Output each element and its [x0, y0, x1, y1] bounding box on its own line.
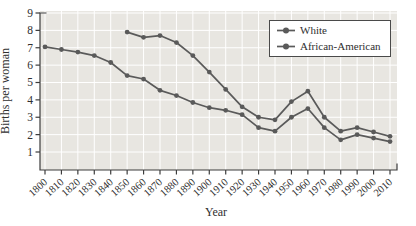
white-series-marker-icon [283, 28, 289, 34]
y-axis-title: Births per woman [0, 48, 12, 134]
data-point-white [371, 136, 376, 141]
y-tick-label: 3 [27, 111, 33, 123]
legend: White African-American [270, 21, 391, 57]
data-point-african-american [273, 117, 278, 122]
legend-label-white: White [300, 24, 327, 36]
data-point-african-american [322, 115, 327, 120]
data-point-african-american [388, 134, 393, 139]
data-point-white [388, 139, 393, 144]
data-point-white [207, 105, 212, 110]
data-point-white [338, 137, 343, 142]
data-point-african-american [371, 130, 376, 135]
fertility-chart-container: 1234567891800181018201830184018501860187… [0, 0, 416, 226]
data-point-white [305, 106, 310, 111]
data-point-white [289, 115, 294, 120]
data-point-african-american [207, 70, 212, 75]
x-axis-title: Year [205, 205, 227, 219]
legend-label-african-american: African-American [300, 40, 381, 52]
y-tick-label: 2 [27, 129, 33, 141]
data-point-white [240, 112, 245, 117]
data-point-white [141, 77, 146, 82]
data-point-white [256, 125, 261, 130]
data-point-white [273, 129, 278, 134]
data-point-white [158, 88, 163, 93]
y-tick-label: 7 [27, 42, 33, 54]
data-point-african-american [289, 99, 294, 104]
data-point-african-american [174, 40, 179, 45]
african-american-series-marker-icon [283, 44, 289, 50]
data-point-african-american [223, 87, 228, 92]
y-tick-label: 6 [27, 59, 33, 71]
data-point-african-american [125, 30, 130, 35]
data-point-white [59, 47, 64, 52]
fertility-line-chart: 1234567891800181018201830184018501860187… [0, 0, 416, 226]
data-point-white [174, 93, 179, 98]
y-tick-label: 4 [27, 94, 33, 106]
data-point-african-american [355, 125, 360, 130]
data-point-white [43, 44, 48, 49]
x-tick-label: 2010 [371, 176, 394, 198]
data-point-white [223, 108, 228, 113]
y-tick-label: 1 [27, 146, 33, 158]
data-point-white [75, 50, 80, 55]
data-point-african-american [141, 35, 146, 40]
data-point-african-american [190, 53, 195, 58]
data-point-african-american [158, 33, 163, 38]
data-point-african-american [305, 89, 310, 94]
data-point-white [125, 73, 130, 78]
data-point-african-american [338, 129, 343, 134]
y-tick-label: 9 [27, 7, 33, 19]
data-point-white [355, 132, 360, 137]
data-point-white [322, 125, 327, 130]
y-tick-label: 8 [27, 24, 33, 36]
data-point-white [190, 100, 195, 105]
y-tick-label: 5 [27, 76, 33, 88]
data-point-african-american [256, 115, 261, 120]
data-point-white [92, 53, 97, 58]
data-point-white [108, 60, 113, 65]
data-point-african-american [240, 104, 245, 109]
